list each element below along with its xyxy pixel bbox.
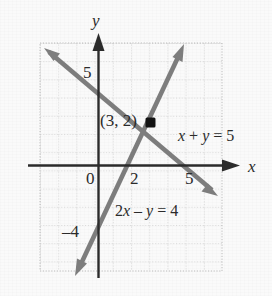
equation-label-line2: 2x – y = 4 — [115, 203, 178, 219]
x-tick-label-2: 2 — [130, 170, 139, 187]
x-axis-label: x — [248, 158, 256, 175]
solution-point-label: (3, 2) — [100, 112, 137, 129]
x-tick-label-5: 5 — [185, 170, 194, 187]
y-axis-label: y — [92, 12, 100, 29]
equation-label-line1: x + y = 5 — [178, 128, 234, 144]
origin-tick-label: 0 — [86, 170, 95, 187]
figure-container: y x 0 2 5 5 –4 (3, 2) x + y = 5 2x – y =… — [0, 0, 272, 296]
coordinate-plane-graph — [0, 0, 272, 296]
solution-point-marker — [146, 118, 156, 128]
y-tick-label-neg4: –4 — [62, 223, 79, 240]
y-tick-label-5: 5 — [83, 64, 92, 81]
